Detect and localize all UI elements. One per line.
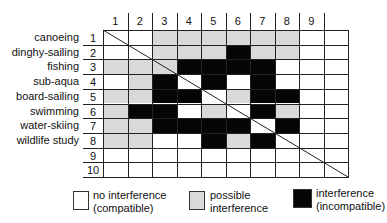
legend-swatch-possible-interference bbox=[189, 191, 205, 210]
legend-swatch-no-interference bbox=[73, 191, 89, 210]
legend-sublabel: (compatible) bbox=[93, 202, 154, 214]
legend-sublabel: (incompatible) bbox=[316, 200, 385, 212]
legend-sublabel: interference bbox=[210, 202, 268, 214]
legend-label: interference bbox=[316, 187, 374, 199]
legend-label: no interference bbox=[93, 189, 166, 201]
legend-swatch-incompatible bbox=[293, 189, 312, 208]
legend-label: possible bbox=[210, 189, 250, 201]
